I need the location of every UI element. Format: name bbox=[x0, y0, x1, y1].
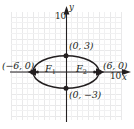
vertex-label-left: (−6, 0) bbox=[2, 61, 34, 71]
x-axis-tick-10: 10 bbox=[110, 72, 121, 81]
y-axis-label: y bbox=[69, 3, 74, 12]
vertex-label-top: (0, 3) bbox=[69, 41, 93, 51]
x-axis-label: x bbox=[122, 73, 127, 82]
vertex-label-bottom: (0, −3) bbox=[69, 90, 101, 100]
y-axis-tick-10: 10 bbox=[55, 12, 66, 21]
focus-label-1-subscript: 1 bbox=[52, 68, 56, 76]
focus-label-1: F1 bbox=[45, 64, 55, 74]
ellipse-figure: y 10 x 10 (−6, 0) (6, 0) (0, 3) (0, −3) … bbox=[0, 0, 134, 129]
focus-label-2: F2 bbox=[76, 64, 86, 74]
focus-label-1-letter: F bbox=[45, 63, 51, 74]
focus-label-2-subscript: 2 bbox=[83, 68, 87, 76]
focus-label-2-letter: F bbox=[76, 63, 82, 74]
vertex-label-right: (6, 0) bbox=[103, 61, 127, 71]
